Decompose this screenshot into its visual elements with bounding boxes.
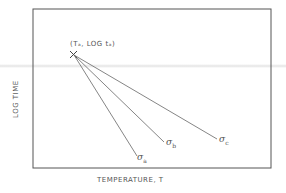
origin-point-label: (Tₐ, LOG tₐ) bbox=[70, 40, 115, 48]
sigma-b-label: σb bbox=[166, 137, 176, 149]
sigma-c-label: σc bbox=[219, 134, 229, 146]
x-axis-label: TEMPERATURE, T bbox=[97, 176, 164, 184]
sigma-a-label: σa bbox=[137, 152, 147, 164]
y-axis-label: LOG TIME bbox=[12, 80, 20, 118]
line-sigma-b bbox=[74, 55, 164, 142]
plot-frame bbox=[33, 9, 271, 168]
diagram-canvas bbox=[0, 0, 286, 193]
line-sigma-c bbox=[74, 55, 217, 139]
line-sigma-a bbox=[74, 55, 137, 156]
